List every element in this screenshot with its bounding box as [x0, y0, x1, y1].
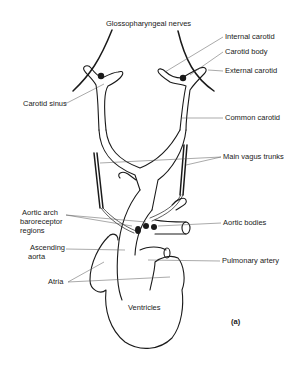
leader-lines	[0, 0, 299, 366]
